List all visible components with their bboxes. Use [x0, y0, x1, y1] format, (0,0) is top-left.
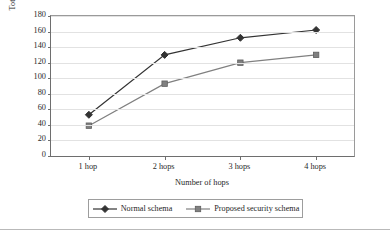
y-axis-tick-label: 40 [22, 119, 46, 129]
y-axis-tick-labels: 180160140120100806040200 [22, 9, 46, 161]
series-layer [51, 16, 354, 156]
y-axis-tick-label: 180 [22, 10, 46, 20]
chart-legend: Normal schemaProposed security schema [88, 199, 303, 218]
y-tick-mark [48, 109, 51, 110]
y-tick-mark [48, 32, 51, 33]
y-tick-mark [48, 140, 51, 141]
gridline [51, 63, 354, 64]
diamond-marker-icon [101, 205, 108, 212]
y-axis-title: Total network consumed energy (J) [7, 0, 19, 24]
x-axis-title: Number of hops [50, 178, 354, 187]
x-axis-tick-label: 2 hops [134, 161, 194, 173]
series-line [89, 55, 316, 126]
x-axis-tick-label: 4 hops [285, 161, 345, 173]
gridline [51, 47, 354, 48]
gridline [51, 78, 354, 79]
x-axis-tick-label: 1 hop [58, 161, 118, 173]
legend-label: Proposed security schema [214, 204, 299, 214]
x-axis-tick-labels: 1 hop2 hops3 hops4 hops [50, 161, 354, 174]
y-tick-mark [48, 78, 51, 79]
y-tick-mark [48, 16, 51, 17]
gridline [51, 94, 354, 95]
y-axis-tick-label: 0 [22, 150, 46, 160]
x-tick-mark [240, 156, 241, 160]
gridline [51, 140, 354, 141]
square-marker-icon [162, 81, 167, 86]
legend-label: Normal schema [121, 204, 173, 214]
legend-entry[interactable]: Proposed security schema [185, 204, 299, 214]
series-line [89, 30, 316, 115]
x-tick-mark [89, 156, 90, 160]
gridline [51, 16, 354, 17]
gridline [51, 125, 354, 126]
y-axis-tick-label: 80 [22, 88, 46, 98]
y-axis-tick-label: 140 [22, 41, 46, 51]
legend-entry[interactable]: Normal schema [92, 204, 173, 214]
diamond-marker-icon [237, 34, 244, 41]
gridline [51, 32, 354, 33]
y-tick-mark [48, 125, 51, 126]
x-tick-mark [165, 156, 166, 160]
y-tick-mark [48, 94, 51, 95]
plot-area [50, 15, 355, 157]
x-tick-mark [316, 156, 317, 160]
square-marker-icon [196, 206, 201, 211]
gridline [51, 109, 354, 110]
legend-key-diamond [92, 204, 118, 214]
y-axis-tick-label: 120 [22, 57, 46, 67]
bottom-divider [0, 229, 390, 230]
y-tick-mark [48, 156, 51, 157]
y-axis-tick-label: 20 [22, 134, 46, 144]
y-axis-tick-label: 60 [22, 103, 46, 113]
square-marker-icon [313, 52, 318, 57]
x-axis-tick-label: 3 hops [209, 161, 269, 173]
y-tick-mark [48, 63, 51, 64]
y-axis-tick-label: 160 [22, 26, 46, 36]
legend-key-square [185, 204, 211, 214]
y-axis-tick-label: 100 [22, 72, 46, 82]
chart-figure: Total network consumed energy (J) 180160… [0, 0, 390, 238]
y-tick-mark [48, 47, 51, 48]
